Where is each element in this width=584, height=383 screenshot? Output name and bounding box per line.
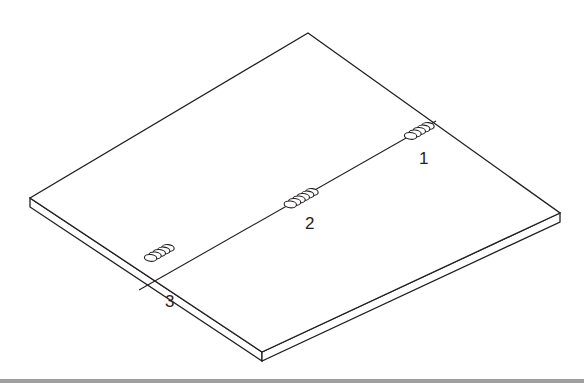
weld-label-2: 2 — [305, 214, 314, 233]
page-bottom-strip — [0, 379, 584, 383]
welded-plate-diagram: 1 2 3 — [0, 0, 584, 383]
plate-top-face — [30, 33, 560, 352]
weld-label-1: 1 — [419, 149, 428, 168]
weld-label-3: 3 — [165, 292, 174, 311]
